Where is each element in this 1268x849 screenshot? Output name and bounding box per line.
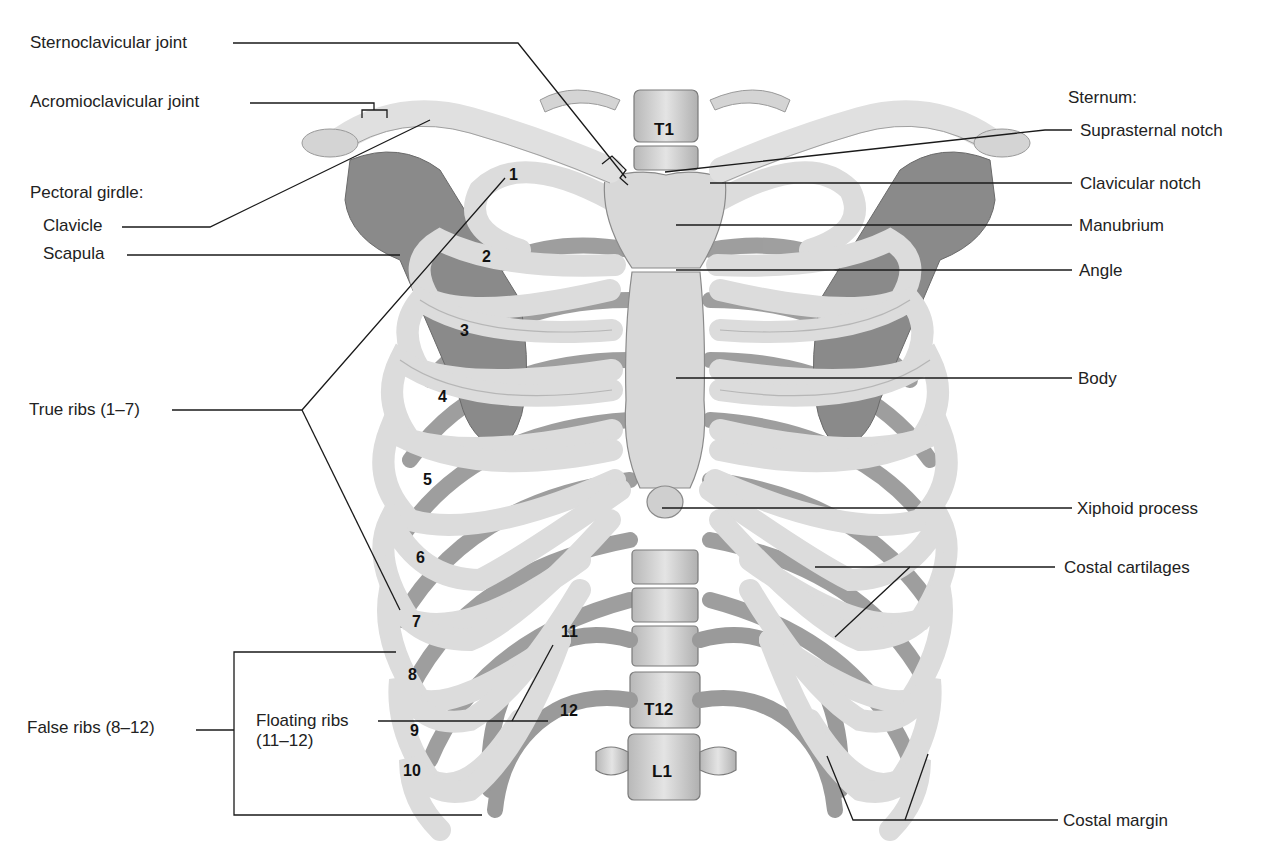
label-suprasternal-notch: Suprasternal notch — [1080, 121, 1223, 141]
rib-number-2: 2 — [482, 248, 491, 266]
rib-number-9: 9 — [410, 722, 419, 740]
rib-number-1: 1 — [509, 166, 518, 184]
label-sternum-heading: Sternum: — [1068, 88, 1137, 108]
label-floating-ribs: Floating ribs — [256, 711, 349, 731]
label-pectoral-girdle-heading: Pectoral girdle: — [30, 183, 143, 203]
vertebra-t1: T1 — [654, 120, 674, 140]
label-xiphoid-process: Xiphoid process — [1077, 499, 1198, 519]
label-acromioclavicular-joint: Acromioclavicular joint — [30, 92, 199, 112]
label-clavicular-notch: Clavicular notch — [1080, 174, 1201, 194]
label-clavicle: Clavicle — [43, 216, 103, 236]
rib-number-6: 6 — [416, 549, 425, 567]
rib-cage-diagram: Sternoclavicular joint Acromioclavicular… — [0, 0, 1268, 849]
rib-number-10: 10 — [403, 762, 421, 780]
rib-cage-illustration — [0, 0, 1268, 849]
label-manubrium: Manubrium — [1079, 216, 1164, 236]
vertebra-t12: T12 — [644, 700, 673, 720]
label-floating-ribs-range: (11–12) — [256, 731, 313, 751]
label-false-ribs: False ribs (8–12) — [27, 718, 155, 738]
rib-number-5: 5 — [423, 471, 432, 489]
label-costal-cartilages: Costal cartilages — [1064, 558, 1190, 578]
sternum — [604, 172, 725, 518]
label-true-ribs: True ribs (1–7) — [29, 400, 140, 420]
rib-number-3: 3 — [460, 322, 469, 340]
rib-number-7: 7 — [412, 613, 421, 631]
label-angle: Angle — [1079, 261, 1122, 281]
label-costal-margin: Costal margin — [1063, 811, 1168, 831]
label-sternoclavicular-joint: Sternoclavicular joint — [30, 33, 187, 53]
label-body: Body — [1078, 369, 1117, 389]
rib-number-12: 12 — [560, 702, 578, 720]
rib-number-11: 11 — [561, 623, 578, 641]
label-scapula: Scapula — [43, 244, 104, 264]
vertebra-l1: L1 — [652, 762, 672, 782]
rib-number-4: 4 — [438, 388, 447, 406]
rib-number-8: 8 — [408, 666, 417, 684]
